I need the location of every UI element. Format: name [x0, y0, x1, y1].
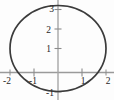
y-tick-label-3: 3: [49, 4, 54, 14]
y-tick-label-neg1: -1: [46, 88, 54, 98]
x-tick-label-1: 1: [81, 76, 86, 86]
x-tick-label-2: 2: [106, 76, 111, 86]
y-tick-label-1: 1: [46, 44, 51, 54]
x-tick-label-neg1: -1: [29, 76, 37, 86]
chart-canvas: -2 -1 1 2 1 2 3 -1: [0, 0, 114, 100]
y-tick-label-2: 2: [46, 25, 51, 35]
x-tick-label-neg2: -2: [3, 76, 11, 86]
circle-plot-figure: -2 -1 1 2 1 2 3 -1: [0, 0, 114, 100]
